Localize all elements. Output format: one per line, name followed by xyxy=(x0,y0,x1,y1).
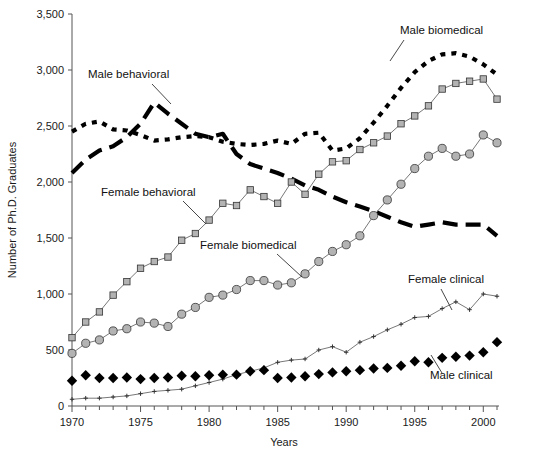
data-point-circle xyxy=(205,293,213,301)
data-point-square xyxy=(220,200,226,206)
data-point-circle xyxy=(411,164,419,172)
annotation-label: Male biomedical xyxy=(400,24,483,36)
data-point-square xyxy=(302,191,308,197)
data-point-circle xyxy=(260,276,268,284)
annotation-label: Female biomedical xyxy=(200,239,297,251)
y-tick-label: 2,000 xyxy=(36,176,64,188)
data-point-circle xyxy=(356,232,364,240)
data-point-square xyxy=(247,187,253,193)
y-tick-label: 3,500 xyxy=(36,8,64,20)
data-point-square xyxy=(439,86,445,92)
data-point-circle xyxy=(370,212,378,220)
data-point-square xyxy=(110,292,116,298)
data-point-circle xyxy=(424,152,432,160)
data-point-circle xyxy=(479,131,487,139)
data-point-square xyxy=(316,171,322,177)
annotation-label: Female behavioral xyxy=(101,186,196,198)
data-point-square xyxy=(412,113,418,119)
data-point-square xyxy=(466,78,472,84)
y-tick-label: 0 xyxy=(58,400,64,412)
data-point-circle xyxy=(328,247,336,255)
data-point-circle xyxy=(315,257,323,265)
data-point-square xyxy=(206,217,212,223)
data-point-square xyxy=(288,179,294,185)
data-point-circle xyxy=(82,339,90,347)
data-point-square xyxy=(233,202,239,208)
data-point-square xyxy=(357,146,363,152)
data-point-square xyxy=(329,159,335,165)
data-point-square xyxy=(453,80,459,86)
data-point-square xyxy=(192,230,198,236)
x-tick-label: 1990 xyxy=(334,416,358,428)
data-point-circle xyxy=(219,291,227,299)
data-point-square xyxy=(343,158,349,164)
data-point-circle xyxy=(342,241,350,249)
data-point-square xyxy=(137,265,143,271)
data-point-square xyxy=(494,96,500,102)
data-point-square xyxy=(261,193,267,199)
y-tick-label: 1,000 xyxy=(36,288,64,300)
data-point-circle xyxy=(287,279,295,287)
chart-canvas: 05001,0001,5002,0002,5003,0003,500 19701… xyxy=(0,0,538,452)
x-axis-title: Years xyxy=(270,436,298,448)
data-point-circle xyxy=(232,285,240,293)
data-point-circle xyxy=(123,325,131,333)
data-point-circle xyxy=(274,281,282,289)
y-tick-label: 2,500 xyxy=(36,120,64,132)
x-tick-label: 1970 xyxy=(60,416,84,428)
data-point-circle xyxy=(246,276,254,284)
x-tick-label: 2000 xyxy=(471,416,495,428)
data-point-circle xyxy=(191,303,199,311)
data-point-square xyxy=(151,258,157,264)
data-point-circle xyxy=(493,139,501,147)
data-point-square xyxy=(274,200,280,206)
data-point-square xyxy=(83,319,89,325)
data-point-circle xyxy=(95,336,103,344)
annotation-label: Male behavioral xyxy=(88,68,169,80)
x-tick-label: 1975 xyxy=(128,416,152,428)
data-point-square xyxy=(165,254,171,260)
data-point-square xyxy=(178,237,184,243)
x-tick-label: 1995 xyxy=(402,416,426,428)
data-point-circle xyxy=(150,319,158,327)
data-point-square xyxy=(480,76,486,82)
data-point-square xyxy=(398,121,404,127)
data-point-circle xyxy=(178,310,186,318)
phd-graduates-line-chart: 05001,0001,5002,0002,5003,0003,500 19701… xyxy=(0,0,538,452)
y-tick-label: 1,500 xyxy=(36,232,64,244)
data-point-circle xyxy=(452,152,460,160)
data-point-circle xyxy=(68,349,76,357)
x-tick-label: 1980 xyxy=(197,416,221,428)
data-point-square xyxy=(370,140,376,146)
annotation-label: Male clinical xyxy=(430,369,493,381)
data-point-circle xyxy=(465,150,473,158)
data-point-square xyxy=(69,334,75,340)
data-point-square xyxy=(96,309,102,315)
y-axis-title: Number of Ph.D. Graduates xyxy=(6,141,18,278)
data-point-circle xyxy=(438,144,446,152)
data-point-square xyxy=(425,103,431,109)
y-tick-label: 3,000 xyxy=(36,64,64,76)
annotation-label: Female clinical xyxy=(408,273,484,285)
x-tick-label: 1985 xyxy=(265,416,289,428)
data-point-circle xyxy=(397,180,405,188)
data-point-square xyxy=(124,278,130,284)
data-point-circle xyxy=(136,318,144,326)
y-tick-label: 500 xyxy=(46,344,64,356)
data-point-circle xyxy=(383,196,391,204)
data-point-circle xyxy=(164,322,172,330)
data-point-circle xyxy=(109,327,117,335)
data-point-square xyxy=(384,133,390,139)
